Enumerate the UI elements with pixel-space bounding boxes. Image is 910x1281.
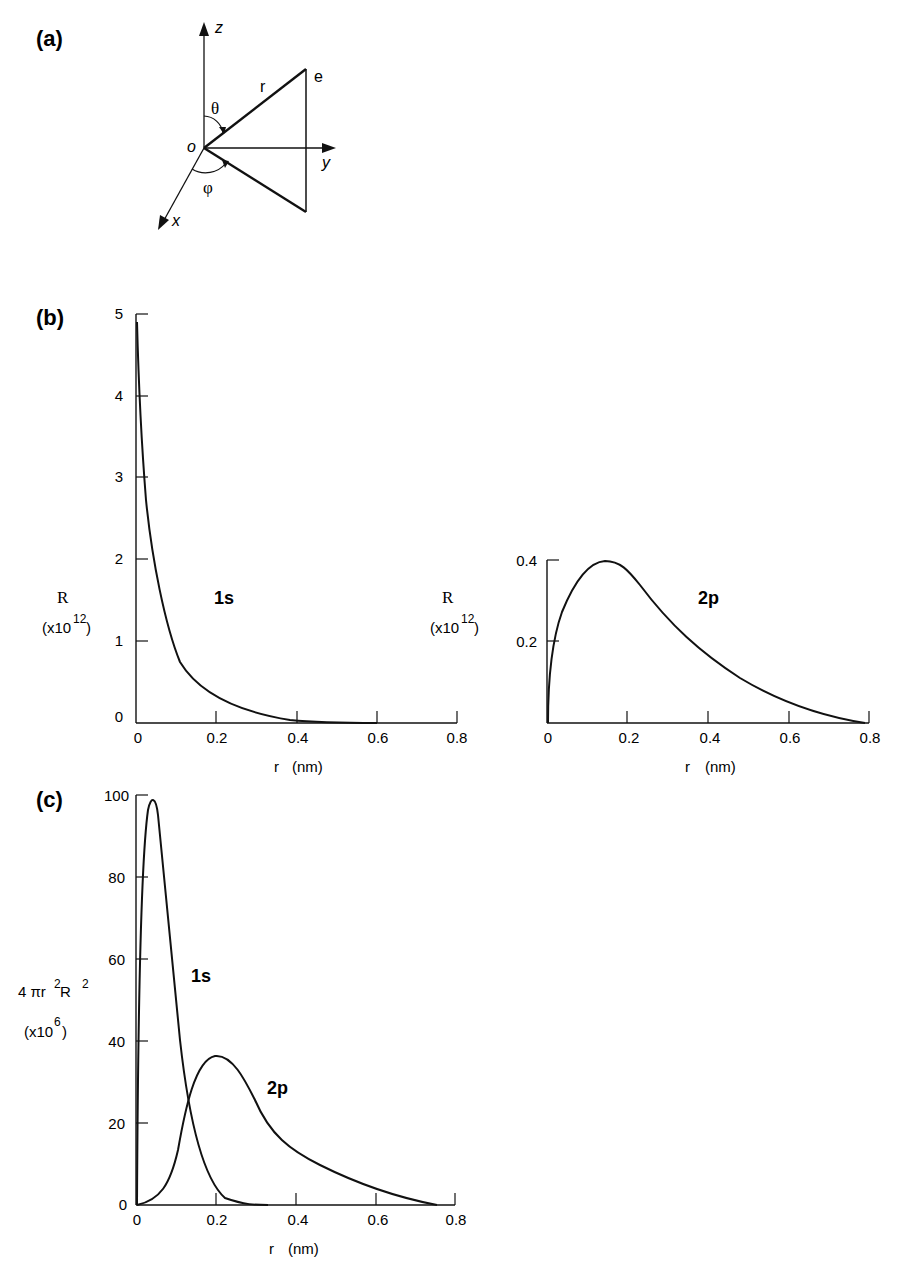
svg-text:80: 80 [108,869,125,886]
phi-label: φ [203,178,213,197]
x-arrowhead-icon [158,215,169,230]
svg-text:R: R [57,588,69,607]
y-tick-labels-1s: 5 4 3 2 1 0 [115,305,123,725]
svg-text:12: 12 [461,612,475,626]
svg-text:6: 6 [54,1015,61,1029]
curve-2p-radial [548,561,865,723]
svg-text:100: 100 [104,787,129,804]
panel-a-diagram: (a) z y x o r e θ φ [36,19,336,230]
y-arrowhead-icon [322,143,336,153]
z-arrowhead-icon [199,22,209,36]
svg-text:0.2: 0.2 [516,633,537,650]
curve-label-c-1s: 1s [191,966,211,986]
svg-text:(nm): (nm) [705,758,736,775]
y-tick-labels-c: 100 80 60 40 20 0 [104,787,129,1213]
svg-text:2: 2 [115,550,123,567]
figure: (a) z y x o r e θ φ (b) [0,0,910,1281]
panel-label-c: (c) [36,787,63,812]
svg-text:0.8: 0.8 [860,729,881,746]
panel-c-chart: (c) 100 80 60 40 20 0 0 0.2 0.4 [18,787,466,1257]
svg-text:0.2: 0.2 [619,729,640,746]
svg-text:0.4: 0.4 [516,552,537,569]
x-ticks-c [216,1193,455,1205]
svg-text:0.4: 0.4 [288,1211,309,1228]
svg-text:0.2: 0.2 [207,1211,228,1228]
curve-1s-probability [137,800,268,1205]
svg-text:0.8: 0.8 [446,1211,467,1228]
panel-b-2p-chart: 0.4 0.2 0 0.2 0.4 0.6 0.8 r (nm) R (x10 … [430,552,880,775]
x-axis-title-1s: r (nm) [274,758,323,775]
cut-off-caption [0,1268,910,1281]
theta-label: θ [211,99,219,118]
curve-1s-radial [137,322,377,723]
svg-text:4: 4 [115,387,123,404]
svg-text:0.6: 0.6 [368,1211,389,1228]
radius-vector [204,69,306,148]
z-axis-label: z [214,19,223,36]
svg-text:0.4: 0.4 [700,729,721,746]
svg-text:3: 3 [115,468,123,485]
svg-text:(x10: (x10 [430,619,459,636]
svg-text:12: 12 [73,612,87,626]
svg-text:R: R [442,588,454,607]
phi-arc [192,163,226,173]
y-axis-title-c: 4 πr 2 R 2 (x10 6 ) [18,977,89,1040]
svg-text:5: 5 [115,305,123,322]
x-axis-title-2p: r (nm) [685,758,736,775]
svg-text:r: r [269,1240,274,1257]
svg-text:0: 0 [133,1211,141,1228]
curve-label-1s: 1s [214,588,234,608]
panel-b-1s-chart: (b) 5 4 3 2 1 0 0 0.2 0 [36,305,467,775]
svg-text:0: 0 [544,729,552,746]
x-axis-title-c: r (nm) [269,1240,319,1257]
svg-text:1: 1 [115,632,123,649]
svg-text:(nm): (nm) [292,758,323,775]
svg-text:r: r [274,758,279,775]
y-axis-title-2p: R (x10 12 ) [430,588,479,636]
svg-text:): ) [474,619,479,636]
svg-text:2: 2 [82,977,89,991]
svg-text:4 πr: 4 πr [18,983,46,1000]
svg-text:): ) [62,1023,67,1040]
panel-label-b: (b) [36,305,64,330]
svg-text:0: 0 [115,708,123,725]
y-axis-label: y [321,154,331,171]
svg-text:(nm): (nm) [288,1240,319,1257]
svg-text:0: 0 [134,729,142,746]
svg-text:(x10: (x10 [24,1023,53,1040]
x-axis [163,148,204,222]
curve-label-2p: 2p [698,588,719,608]
origin-label: o [187,138,196,155]
svg-text:): ) [86,619,91,636]
projection-vector [204,148,306,212]
y-tick-labels-2p: 0.4 0.2 [516,552,537,650]
panel-label-a: (a) [36,26,63,51]
svg-text:0: 0 [119,1196,127,1213]
curve-label-c-2p: 2p [267,1078,288,1098]
svg-text:0.8: 0.8 [447,729,468,746]
svg-text:0.2: 0.2 [207,729,228,746]
x-tick-labels-2p: 0 0.2 0.4 0.6 0.8 [544,729,881,746]
y-axis-title-1s: R (x10 12 ) [42,588,91,636]
theta-arc [204,116,223,133]
svg-text:60: 60 [108,951,125,968]
x-ticks-1s [216,711,457,723]
x-axis-label: x [171,212,181,229]
svg-text:0.4: 0.4 [288,729,309,746]
electron-label: e [314,68,323,85]
svg-text:(x10: (x10 [42,619,71,636]
svg-text:R: R [60,983,71,1000]
x-tick-labels-1s: 0 0.2 0.4 0.6 0.8 [134,729,468,746]
svg-text:20: 20 [108,1115,125,1132]
x-tick-labels-c: 0 0.2 0.4 0.6 0.8 [133,1211,467,1228]
svg-text:0.6: 0.6 [368,729,389,746]
svg-text:0.6: 0.6 [780,729,801,746]
radius-label: r [260,78,266,95]
svg-text:40: 40 [108,1033,125,1050]
svg-text:r: r [685,758,690,775]
